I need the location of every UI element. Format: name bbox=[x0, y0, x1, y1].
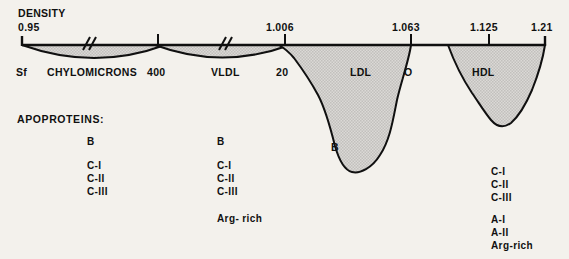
apo-item: A-I bbox=[491, 215, 506, 225]
lipoprotein-density-figure: DENSITY 0.95 1.006 1.063 1.125 1.21 Sf C… bbox=[0, 0, 569, 259]
ldl-curve-apo-b-label: B bbox=[331, 142, 339, 153]
density-tick-4: 1.21 bbox=[531, 22, 553, 33]
density-axis-line bbox=[22, 36, 545, 46]
apo-item: Arg-rich bbox=[491, 241, 533, 251]
apo-item: C-II bbox=[217, 174, 235, 184]
sf-tick-400: 400 bbox=[147, 67, 165, 78]
ldl-area bbox=[279, 45, 411, 172]
apoproteins-heading: APOPROTEINS: bbox=[17, 114, 104, 125]
sf-tick-zero: O bbox=[404, 67, 412, 78]
class-label-ldl: LDL bbox=[350, 67, 371, 78]
class-label-chylomicrons: CHYLOMICRONS bbox=[47, 67, 137, 78]
distribution-areas bbox=[22, 45, 545, 172]
apo-item: C-III bbox=[217, 187, 238, 197]
density-tick-0: 0.95 bbox=[18, 22, 40, 33]
chylomicrons-area bbox=[22, 45, 165, 58]
density-distribution-drawing bbox=[0, 0, 569, 259]
sf-tick-20: 20 bbox=[276, 67, 288, 78]
density-tick-3: 1.125 bbox=[470, 22, 498, 33]
apo-item: B bbox=[217, 137, 225, 147]
density-axis-label: DENSITY bbox=[18, 8, 66, 19]
sf-axis-label: Sf bbox=[16, 67, 27, 78]
vldl-area bbox=[155, 45, 290, 58]
apo-item: A-II bbox=[491, 228, 509, 238]
density-tick-1: 1.006 bbox=[266, 22, 294, 33]
density-tick-2: 1.063 bbox=[392, 22, 420, 33]
apo-item: C-II bbox=[87, 174, 105, 184]
apo-item: C-III bbox=[87, 187, 108, 197]
apo-item: Arg- rich bbox=[217, 214, 262, 224]
apo-item: B bbox=[87, 137, 95, 147]
apo-item: C-III bbox=[491, 193, 512, 203]
apo-item: C-I bbox=[217, 161, 232, 171]
class-label-hdl: HDL bbox=[472, 67, 494, 78]
hdl-area bbox=[448, 45, 545, 126]
class-label-vldl: VLDL bbox=[211, 67, 240, 78]
apo-item: C-II bbox=[491, 180, 509, 190]
apo-item: C-I bbox=[87, 161, 102, 171]
apo-item: C-I bbox=[491, 167, 506, 177]
